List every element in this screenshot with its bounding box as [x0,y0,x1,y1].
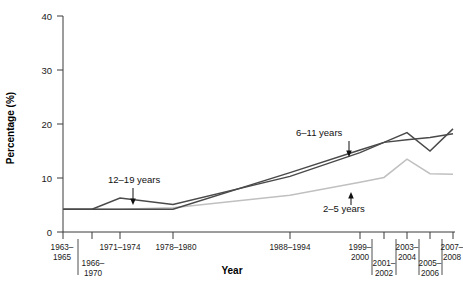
x-label-1999-2000-line2: 2000 [351,253,370,262]
x-tick-labels-top: 1963– 1965 1971–1974 1978–1980 1988–1994… [51,243,463,262]
annotation-arrowhead-2-5-years [348,192,354,199]
x-label-2005-2006-line2: 2006 [421,269,440,278]
x-label-1963-1965-line1: 1963– [51,243,74,252]
x-label-2007-2008-line2: 2008 [443,253,462,262]
annotation-label-6-11-years: 6–11 years [296,127,343,138]
annotation-2-5-years: 2–5 years [323,192,365,214]
y-tick-group [57,16,63,232]
annotation-label-12-19-years: 12–19 years [108,174,161,185]
x-label-2003-2004-line1: 2003– [396,243,419,252]
chart-canvas: 40 30 20 10 0 Percentage (%) [0,0,463,291]
obesity-trend-line-chart: 40 30 20 10 0 Percentage (%) [0,0,463,291]
annotation-arrowhead-12-19-years [130,199,136,206]
x-axis-title: Year [221,265,242,276]
annotation-6-11-years: 6–11 years [296,127,352,157]
x-label-1988-1994: 1988–1994 [270,243,311,252]
x-label-1966-1970-line1: 1966– [82,259,105,268]
y-axis: 40 30 20 10 0 Percentage (%) [5,11,63,238]
y-axis-title: Percentage (%) [5,92,16,164]
x-label-2001-2002-line1: 2001– [373,259,396,268]
y-tick-label-40: 40 [41,11,52,22]
x-label-2007-2008-line1: 2007– [441,243,463,252]
x-tick-labels-bottom: 1966– 1970 2001– 2002 2005– 2006 [82,259,442,278]
x-tick-group [63,232,453,239]
x-label-2005-2006-line1: 2005– [419,259,442,268]
x-label-1999-2000-line1: 1999– [349,243,372,252]
series-group [63,129,453,209]
y-tick-label-10: 10 [41,173,52,184]
y-tick-label-30: 30 [41,65,52,76]
x-label-1963-1965-line2: 1965 [53,253,72,262]
x-label-1971-1974: 1971–1974 [100,243,141,252]
y-tick-label-0: 0 [47,227,52,238]
x-axis: 1963– 1965 1971–1974 1978–1980 1988–1994… [51,232,463,278]
x-label-1978-1980: 1978–1980 [156,243,197,252]
annotation-label-2-5-years: 2–5 years [323,203,365,214]
y-tick-label-20: 20 [41,119,52,130]
x-label-1966-1970-line2: 1970 [84,269,103,278]
x-label-2003-2004-line2: 2004 [398,253,417,262]
x-label-2001-2002-line2: 2002 [375,269,394,278]
